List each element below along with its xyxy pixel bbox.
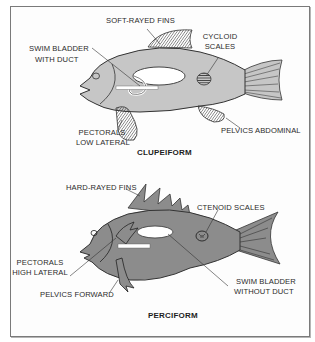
- label-pectorals-low-lateral-line1: PECTORALS: [76, 128, 128, 137]
- label-cycloid-scales-line2: SCALES: [200, 42, 240, 51]
- cycloid-scale: [197, 73, 211, 85]
- clupeiform-pelvic-fin: [198, 106, 224, 122]
- label-pectorals-high-lateral-line1: PECTORALS: [12, 258, 68, 267]
- label-cycloid-scales-line1: CYCLOID: [200, 32, 240, 41]
- label-ctenoid-scales: CTENOID SCALES: [197, 203, 265, 212]
- label-soft-rayed-fins: SOFT-RAYED FINS: [106, 16, 175, 25]
- perciform-swim-bladder: [137, 226, 173, 238]
- label-swim-bladder-with-duct-line2: WITH DUCT: [35, 55, 79, 64]
- clupeiform-tail: [240, 60, 282, 100]
- perciform-fish: [70, 184, 280, 292]
- label-swim-bladder-without-duct-line1: SWIM BLADDER: [236, 277, 296, 286]
- label-pelvics-abdominal: PELVICS ABDOMINAL: [221, 126, 301, 135]
- label-swim-bladder-with-duct-line1: SWIM BLADDER: [29, 44, 89, 53]
- label-pectorals-high-lateral-line2: HIGH LATERAL: [12, 268, 68, 277]
- clupeiform-fish: [80, 29, 282, 140]
- perciform-title: PERCIFORM: [148, 311, 198, 320]
- soft-rayed-dorsal-fin: [148, 30, 192, 48]
- label-pectorals-low-lateral-line2: LOW LATERAL: [76, 138, 128, 147]
- label-hard-rayed-fins: HARD-RAYED FINS: [66, 183, 137, 192]
- label-pelvics-forward: PELVICS FORWARD: [40, 290, 114, 299]
- perciform-body: [80, 210, 240, 280]
- label-swim-bladder-without-duct-line2: WITHOUT DUCT: [234, 287, 294, 296]
- clupeiform-title: CLUPEIFORM: [137, 148, 192, 157]
- clupeiform-swim-bladder: [133, 67, 185, 85]
- perciform-tail: [236, 212, 280, 264]
